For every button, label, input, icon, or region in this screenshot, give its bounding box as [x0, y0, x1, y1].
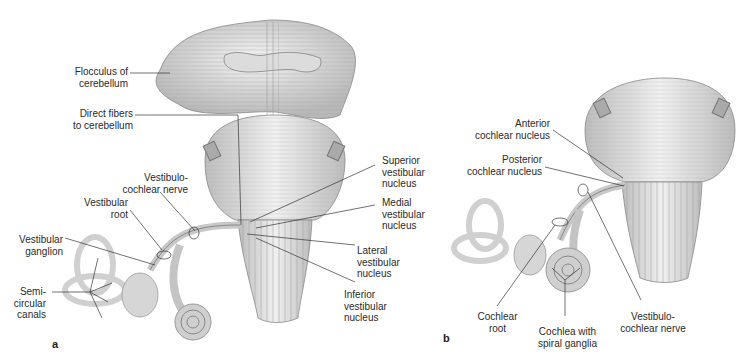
label-flocculus: Flocculus of cerebellum [75, 66, 128, 89]
label-line: nucleus [382, 220, 425, 232]
label-line: Vestibulo- [613, 311, 693, 323]
label-line: ganglion [19, 246, 63, 258]
label-line: vestibular [382, 167, 425, 179]
label-vestibular-root: Vestibular root [84, 197, 128, 220]
label-line: circular [14, 298, 46, 310]
label-line: Vestibular [19, 234, 63, 246]
label-cochlear-root: Cochlear root [470, 311, 525, 334]
label-line: spiral ganglia [530, 338, 605, 350]
label-medial-vestibular-nucleus: Medial vestibular nucleus [382, 197, 425, 232]
label-line: cochlear nucleus [467, 166, 542, 178]
label-line: cerebellum [75, 78, 128, 90]
label-direct-fibers: Direct fibers to cerebellum [73, 108, 133, 131]
brainstem-a-drawing [203, 115, 345, 323]
inner-ear-b-drawing [454, 185, 625, 292]
panel-letter-a: a [52, 338, 58, 350]
label-line: vestibular [344, 301, 387, 313]
label-posterior-cochlear-nucleus: Posterior cochlear nucleus [467, 154, 542, 177]
label-vestibulocochlear-nerve-b: Vestibulo- cochlear nerve [613, 311, 693, 334]
label-line: cochlear nerve [122, 184, 188, 196]
label-line: Posterior [467, 154, 542, 166]
label-line: Anterior [475, 118, 550, 130]
label-line: to cerebellum [73, 120, 133, 132]
label-inferior-vestibular-nucleus: Inferior vestibular nucleus [344, 289, 387, 324]
label-line: root [84, 209, 128, 221]
label-vestibulocochlear-nerve-a: Vestibulo- cochlear nerve [122, 172, 188, 195]
label-line: root [470, 323, 525, 335]
label-line: cochlear nerve [613, 323, 693, 335]
label-line: nucleus [344, 312, 387, 324]
label-line: nucleus [357, 268, 400, 280]
label-line: cochlear nucleus [475, 130, 550, 142]
label-anterior-cochlear-nucleus: Anterior cochlear nucleus [475, 118, 550, 141]
inner-ear-a-drawing [65, 225, 240, 340]
label-line: Cochlea with [530, 326, 605, 338]
label-line: canals [14, 309, 46, 321]
label-semicircular-canals: Semi- circular canals [14, 286, 46, 321]
label-lateral-vestibular-nucleus: Lateral vestibular nucleus [357, 245, 400, 280]
label-line: Direct fibers [73, 108, 133, 120]
label-superior-vestibular-nucleus: Superior vestibular nucleus [382, 155, 425, 190]
label-line: Vestibulo- [122, 172, 188, 184]
label-line: nucleus [382, 178, 425, 190]
label-line: Semi- [14, 286, 46, 298]
label-line: Lateral [357, 245, 400, 257]
label-line: Superior [382, 155, 425, 167]
label-vestibular-ganglion: Vestibular ganglion [19, 234, 63, 257]
label-line: Flocculus of [75, 66, 128, 78]
label-line: Inferior [344, 289, 387, 301]
cerebellum-drawing [156, 20, 355, 118]
brainstem-b-drawing [585, 78, 735, 283]
label-cochlea-spiral-ganglia: Cochlea with spiral ganglia [530, 326, 605, 349]
label-line: vestibular [357, 257, 400, 269]
label-line: Medial [382, 197, 425, 209]
label-line: Vestibular [84, 197, 128, 209]
label-line: vestibular [382, 209, 425, 221]
panel-letter-b: b [443, 332, 450, 344]
label-line: Cochlear [470, 311, 525, 323]
